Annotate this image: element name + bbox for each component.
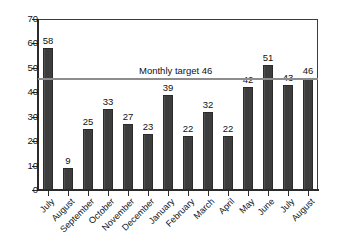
y-axis-tick-label: 20 (14, 136, 38, 146)
bar (123, 124, 133, 190)
y-axis-tick-label: 40 (14, 87, 38, 97)
y-axis-tick-label: 30 (14, 112, 38, 122)
y-axis-tick-label: 10 (14, 161, 38, 171)
bar (103, 109, 113, 190)
bar (223, 136, 233, 190)
bar-value-label: 32 (194, 100, 222, 110)
bar (43, 48, 53, 190)
monthly-target-label: Monthly target 46 (139, 66, 212, 76)
bar (63, 168, 73, 190)
y-axis-tick-label: 70 (14, 14, 38, 24)
bar-value-label: 25 (74, 117, 102, 127)
bar-value-label: 23 (134, 122, 162, 132)
y-axis-tick-label: 0 (14, 185, 38, 195)
bar-chart: 010203040506070 JulyAugustSeptemberOctob… (0, 0, 349, 250)
bar (163, 95, 173, 190)
bar-value-label: 58 (34, 36, 62, 46)
bar (303, 78, 313, 190)
bar-value-label: 39 (154, 83, 182, 93)
monthly-target-line (38, 78, 318, 80)
bar-value-label: 46 (294, 66, 322, 76)
bar (283, 85, 293, 190)
bar (203, 112, 213, 190)
bar (143, 134, 153, 190)
bar (243, 87, 253, 190)
bar-value-label: 9 (54, 156, 82, 166)
bar (83, 129, 93, 190)
bar-value-label: 51 (254, 53, 282, 63)
bar-value-label: 27 (114, 112, 142, 122)
bar-value-label: 33 (94, 97, 122, 107)
y-axis-tick-label: 50 (14, 63, 38, 73)
x-axis-line (37, 189, 319, 191)
bar-value-label: 22 (214, 124, 242, 134)
bar-value-label: 22 (174, 124, 202, 134)
bar (183, 136, 193, 190)
bar (263, 65, 273, 190)
